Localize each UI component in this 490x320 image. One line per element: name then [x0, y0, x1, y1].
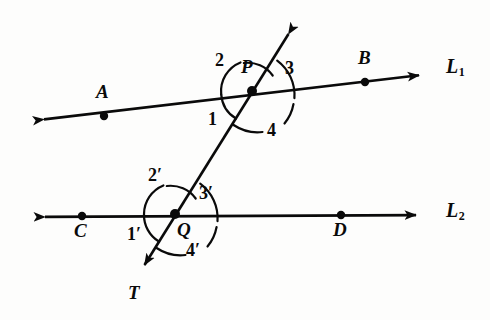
angle-label-4: 4 — [267, 121, 276, 139]
arc-angle-4 — [234, 125, 263, 132]
point-label-C: C — [74, 221, 87, 240]
point-label-T: T — [128, 283, 140, 302]
point-dot-B — [361, 78, 369, 86]
point-label-B: B — [358, 48, 371, 67]
arc-angle-2-prime — [144, 185, 163, 214]
line-L2 — [45, 215, 416, 217]
line-label-L2: L2 — [446, 200, 465, 222]
point-dot-P — [247, 86, 257, 96]
line-L2-segment — [45, 215, 416, 217]
line-label-L1-subscript: 1 — [459, 65, 465, 79]
geometry-diagram: A B P C D Q T L1 L2 1 2 3 4 1′ 2′ 3′ 4′ — [0, 0, 490, 320]
point-label-D: D — [333, 220, 347, 239]
angle-label-1-prime: 1′ — [127, 225, 141, 243]
arc-angle-4-prime-right — [208, 227, 217, 247]
line-label-L1: L1 — [446, 56, 465, 78]
line-label-L1-base: L — [446, 55, 458, 77]
point-label-A: A — [96, 82, 109, 101]
angle-label-2: 2 — [215, 51, 224, 69]
point-dot-Q — [170, 209, 180, 219]
arc-angle-4-right — [285, 104, 294, 124]
point-label-Q: Q — [177, 220, 191, 239]
point-dot-C — [78, 212, 86, 220]
angle-label-2-prime: 2′ — [148, 166, 162, 184]
angle-label-4-prime: 4′ — [186, 241, 200, 259]
angle-label-1: 1 — [208, 110, 217, 128]
point-dot-D — [337, 211, 345, 219]
diagram-canvas — [0, 0, 490, 320]
arc-angle-4-prime — [157, 248, 186, 255]
line-label-L2-subscript: 2 — [459, 209, 465, 223]
point-label-P: P — [241, 57, 253, 76]
angle-label-3: 3 — [285, 59, 294, 77]
point-dot-A — [100, 112, 108, 120]
line-label-L2-base: L — [446, 199, 458, 221]
arc-angle-1-prime — [144, 214, 159, 241]
angle-label-3-prime: 3′ — [199, 184, 213, 202]
